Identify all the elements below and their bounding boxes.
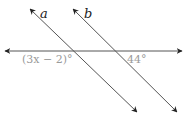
- line-a-label: a: [40, 6, 48, 21]
- diagram-canvas: a b (3x − 2)° 44°: [0, 0, 186, 117]
- angle-label-44: 44°: [127, 53, 147, 66]
- angle-label-3x-minus-2: (3x − 2)°: [22, 53, 73, 66]
- line-b: [73, 9, 177, 112]
- line-b-label: b: [84, 6, 92, 21]
